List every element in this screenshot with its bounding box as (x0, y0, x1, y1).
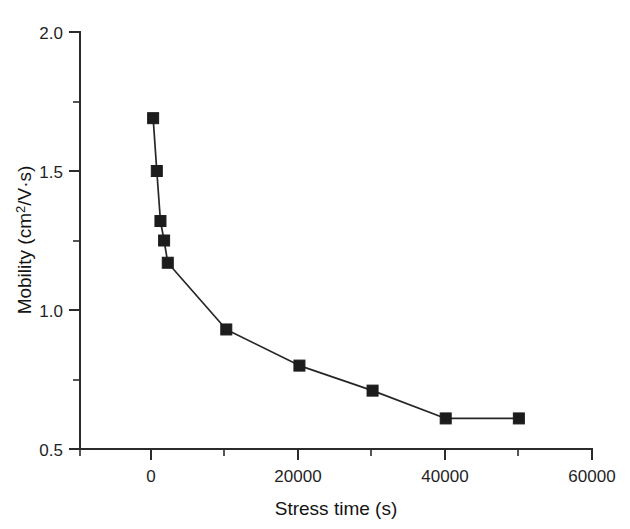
data-point-3 (159, 235, 170, 246)
y-axis-title-prefix: Mobility (cm (14, 213, 35, 314)
y-axis-title-suffix: /V·s) (14, 166, 35, 206)
chart-figure: 2.0 1.5 1.0 0.5 0 20000 40000 60000 Stre… (0, 0, 630, 529)
data-point-6 (294, 360, 305, 371)
y-axis-title-superscript: 2 (13, 206, 28, 213)
y-axis-title: Mobility (cm2/V·s) (13, 166, 35, 315)
y-tick-label-2-0: 2.0 (39, 24, 63, 43)
data-point-2 (155, 216, 166, 227)
x-tick-label-20000: 20000 (274, 467, 321, 486)
x-axis-title: Stress time (s) (275, 498, 397, 519)
svg-text:Mobility (cm2/V·s): Mobility (cm2/V·s) (13, 166, 35, 315)
mobility-vs-stress-time-chart: 2.0 1.5 1.0 0.5 0 20000 40000 60000 Stre… (0, 0, 630, 529)
data-point-0 (148, 113, 159, 124)
y-tick-label-1-0: 1.0 (39, 302, 63, 321)
y-tick-label-1-5: 1.5 (39, 163, 63, 182)
data-point-7 (367, 385, 378, 396)
series-line (153, 118, 519, 418)
data-point-4 (162, 257, 173, 268)
y-tick-label-0-5: 0.5 (39, 441, 63, 460)
data-point-8 (440, 413, 451, 424)
data-series-mobility (148, 113, 525, 424)
y-axis-ticks: 2.0 1.5 1.0 0.5 (39, 24, 80, 460)
data-point-1 (151, 166, 162, 177)
axes-spines (80, 32, 592, 449)
data-point-9 (513, 413, 524, 424)
data-point-5 (221, 324, 232, 335)
x-tick-label-60000: 60000 (568, 467, 615, 486)
x-tick-label-0: 0 (146, 467, 155, 486)
x-tick-label-40000: 40000 (421, 467, 468, 486)
x-axis-ticks: 0 20000 40000 60000 (80, 449, 616, 486)
